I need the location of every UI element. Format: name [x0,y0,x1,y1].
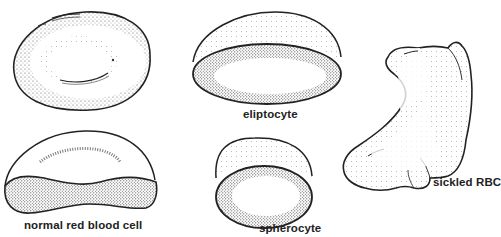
sickled-rbc-cell [343,42,472,190]
label-normal-red-blood-cell: normal red blood cell [24,219,142,231]
normal-rbc-section-view [5,131,157,213]
spherocyte-cell [216,138,312,228]
label-sickled-rbc: sickled RBC [433,176,501,188]
label-spherocyte: spherocyte [259,222,321,234]
label-eliptocyte: eliptocyte [243,108,298,120]
eliptocyte-cell [193,12,341,104]
normal-rbc-top-view [14,12,150,110]
